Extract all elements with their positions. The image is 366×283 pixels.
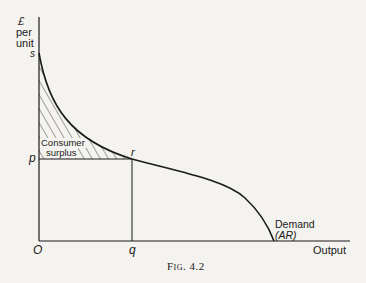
point-label-r: r: [131, 147, 135, 158]
point-label-p: p: [29, 153, 36, 164]
demand-curve-label-ar: (AR): [275, 230, 297, 241]
x-axis-label: Output: [313, 245, 346, 256]
point-label-origin: O: [33, 245, 42, 256]
point-label-s: s: [30, 48, 35, 59]
figure-caption: Fig. 4.2: [167, 261, 205, 272]
point-label-q: q: [129, 245, 136, 256]
consumer-surplus-label-line2: surplus: [45, 148, 78, 158]
